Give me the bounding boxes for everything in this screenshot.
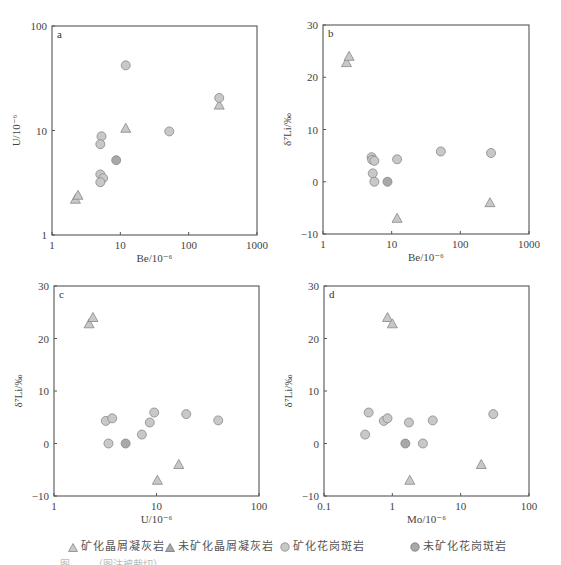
data-point-circle <box>104 439 113 448</box>
panel-d: d0.1110100−100102030Mo/10⁻⁶δ⁷Li/‰ <box>282 280 538 525</box>
y-tick-label: 1 <box>42 229 48 241</box>
x-tick-label: 100 <box>452 238 469 250</box>
panel-b: b1101001000−100102030Be/10⁻⁶δ⁷Li/‰ <box>281 19 541 263</box>
y-axis-label: δ⁷Li/‰ <box>282 375 294 408</box>
panel-c: c110100−100102030U/10⁻⁶δ⁷Li/‰ <box>12 280 268 525</box>
data-point-circle <box>393 155 402 164</box>
data-point-triangle <box>121 123 131 132</box>
figure-caption: 图 ……（图注被裁切） <box>60 556 540 565</box>
plot-frame <box>52 26 257 235</box>
triangle-light-icon <box>68 543 78 552</box>
y-tick-label: 0 <box>44 438 50 450</box>
y-tick-label: −10 <box>302 490 320 502</box>
data-point-circle <box>112 156 121 165</box>
x-axis-label: Be/10⁻⁶ <box>408 251 444 263</box>
data-point-circle <box>150 408 159 417</box>
x-axis-label: Be/10⁻⁶ <box>137 252 173 264</box>
plot-frame <box>54 286 259 496</box>
circle-dark-icon <box>410 542 420 552</box>
y-axis-label: U/10⁻⁶ <box>10 115 22 147</box>
x-tick-label: 1 <box>49 239 55 251</box>
data-point-circle <box>121 439 130 448</box>
data-point-circle <box>370 156 379 165</box>
data-point-circle <box>182 410 191 419</box>
panel-label: a <box>57 28 62 40</box>
data-point-circle <box>487 149 496 158</box>
y-tick-label: 30 <box>307 19 319 31</box>
x-tick-label: 10 <box>455 500 467 512</box>
data-point-circle <box>401 439 410 448</box>
legend-label: 矿化花岗斑岩 <box>293 540 365 553</box>
data-point-triangle <box>174 460 184 469</box>
x-tick-label: 1000 <box>518 238 541 250</box>
y-tick-label: 10 <box>308 385 320 397</box>
data-point-circle <box>145 418 154 427</box>
data-point-triangle <box>485 198 495 207</box>
data-point-circle <box>364 408 373 417</box>
data-point-circle <box>489 410 498 419</box>
x-axis-label: U/10⁻⁶ <box>141 513 173 525</box>
x-tick-label: 10 <box>386 238 398 250</box>
legend-item-unmineralized-porphyry: 未矿化花岗斑岩 <box>410 537 507 553</box>
panel-label: b <box>328 27 334 39</box>
data-point-circle <box>404 418 413 427</box>
x-tick-label: 100 <box>521 500 538 512</box>
y-tick-label: 20 <box>38 333 50 345</box>
data-point-circle <box>383 177 392 186</box>
legend-label: 未矿化花岗斑岩 <box>423 540 507 553</box>
data-point-circle <box>96 140 105 149</box>
x-tick-label: 100 <box>180 239 197 251</box>
panel-label: d <box>329 288 335 300</box>
x-tick-label: 1 <box>320 238 326 250</box>
y-tick-label: −10 <box>301 228 319 240</box>
plot-frame <box>323 25 529 234</box>
data-point-triangle <box>88 313 98 322</box>
data-point-circle <box>108 414 117 423</box>
x-tick-label: 1 <box>390 500 396 512</box>
x-tick-label: 1 <box>51 500 57 512</box>
y-tick-label: 0 <box>314 438 320 450</box>
plot-frame <box>324 286 529 496</box>
x-tick-label: 10 <box>115 239 127 251</box>
triangle-dark-icon <box>165 543 175 552</box>
data-point-circle <box>383 414 392 423</box>
y-tick-label: −10 <box>32 490 50 502</box>
x-tick-label: 100 <box>251 500 268 512</box>
data-point-triangle <box>344 51 354 60</box>
legend-item-mineralized-porphyry: 矿化花岗斑岩 <box>280 537 365 553</box>
data-point-circle <box>96 178 105 187</box>
data-point-circle <box>214 416 223 425</box>
y-tick-label: 0 <box>313 176 319 188</box>
data-point-triangle <box>392 213 402 222</box>
y-tick-label: 10 <box>36 125 48 137</box>
data-point-circle <box>418 439 427 448</box>
y-tick-label: 30 <box>308 280 320 292</box>
y-tick-label: 20 <box>308 333 320 345</box>
y-tick-label: 30 <box>38 280 50 292</box>
panel-a: a1101001000110100Be/10⁻⁶U/10⁻⁶ <box>10 20 269 264</box>
legend: 矿化晶屑凝灰岩 未矿化晶屑凝灰岩 矿化花岗斑岩 未矿化花岗斑岩 <box>0 537 561 555</box>
data-point-triangle <box>476 460 486 469</box>
legend-item-mineralized-tuff: 矿化晶屑凝灰岩 <box>68 537 165 553</box>
x-tick-label: 1000 <box>246 239 269 251</box>
data-point-circle <box>370 177 379 186</box>
data-point-circle <box>368 169 377 178</box>
y-axis-label: δ⁷Li/‰ <box>281 113 293 146</box>
data-point-circle <box>215 93 224 102</box>
data-point-circle <box>165 127 174 136</box>
data-point-triangle <box>73 190 83 199</box>
y-tick-label: 10 <box>38 385 50 397</box>
circle-light-icon <box>280 542 290 552</box>
data-point-circle <box>361 430 370 439</box>
y-tick-label: 20 <box>307 71 319 83</box>
y-tick-label: 10 <box>307 124 319 136</box>
x-axis-label: Mo/10⁻⁶ <box>407 513 446 525</box>
data-point-triangle <box>405 475 415 484</box>
x-tick-label: 10 <box>151 500 163 512</box>
x-tick-label: 0.1 <box>317 500 331 512</box>
y-axis-label: δ⁷Li/‰ <box>12 375 24 408</box>
data-point-circle <box>428 416 437 425</box>
data-point-circle <box>436 147 445 156</box>
y-tick-label: 100 <box>31 20 48 32</box>
panel-label: c <box>59 288 64 300</box>
